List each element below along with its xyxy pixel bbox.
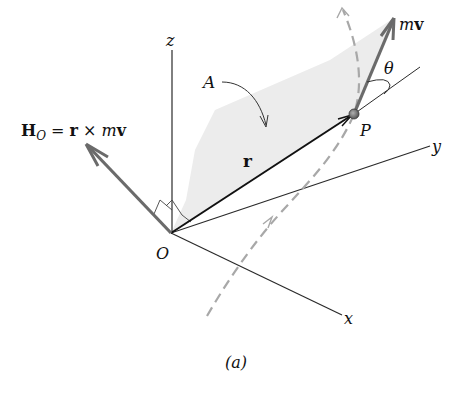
theta-label: θ (384, 59, 394, 78)
momentum-v: v (413, 15, 424, 34)
h-subscript: O (36, 129, 46, 143)
angular-momentum-vector (88, 146, 171, 233)
x-axis-label: x (344, 309, 353, 328)
point-label: P (359, 121, 371, 140)
x-axis (171, 233, 342, 315)
path-arrow-icon (263, 217, 272, 228)
momentum-label: mv (399, 15, 424, 34)
angular-momentum-diagram: z y x O P A r θ mv HO = r × mv (a) (0, 0, 456, 397)
h-m: m (102, 121, 117, 140)
y-axis-label: y (431, 137, 442, 156)
path-arrow-top-icon (337, 8, 349, 18)
momentum-m: m (399, 15, 414, 34)
h-equals: = (46, 121, 70, 140)
r-label: r (243, 151, 253, 171)
particle-P (349, 109, 359, 119)
h-v: v (116, 121, 127, 140)
theta-arc (367, 80, 390, 94)
angular-momentum-label: HO = r × mv (21, 121, 127, 143)
h-cross: × (78, 121, 102, 140)
z-axis-label: z (165, 31, 175, 50)
figure-caption: (a) (225, 353, 247, 372)
origin-label: O (156, 244, 169, 263)
area-label: A (201, 72, 215, 92)
h-symbol: H (21, 121, 36, 140)
